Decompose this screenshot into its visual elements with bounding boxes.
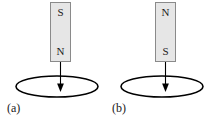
motion-arrow-a bbox=[57, 62, 64, 92]
arrow-head-a bbox=[57, 84, 64, 93]
conducting-loop-a bbox=[16, 76, 98, 97]
diagram-panel-b: N S (b) bbox=[105, 0, 210, 123]
diagram-panel-a: S N (a) bbox=[0, 0, 105, 123]
arrow-head-b bbox=[162, 84, 169, 93]
panel-caption-a: (a) bbox=[7, 101, 20, 115]
panel-caption-b: (b) bbox=[112, 101, 126, 115]
motion-arrow-b bbox=[162, 62, 169, 92]
magnet-loop-figure: S N (a) N S (b) bbox=[0, 0, 210, 123]
conducting-loop-b bbox=[121, 76, 203, 97]
